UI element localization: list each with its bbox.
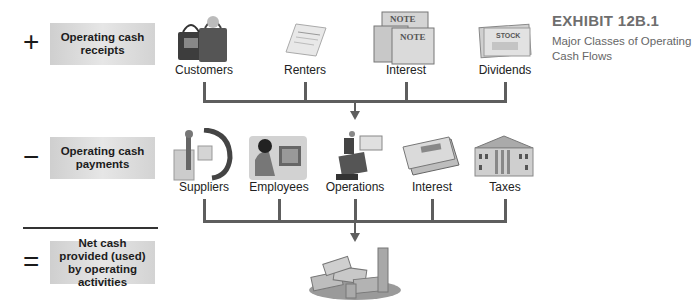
checks-icon <box>401 135 461 177</box>
minus-operator: − <box>23 143 39 171</box>
operating-cash-payments-box: Operating cash payments <box>50 137 155 179</box>
source-dividends: Dividends <box>460 63 550 77</box>
source-interest-receipt: Interest <box>361 63 451 77</box>
svg-text:NOTE: NOTE <box>400 32 426 42</box>
exhibit-subtitle: Major Classes of Operating Cash Flows <box>552 34 697 64</box>
supplier-boxes-icon <box>172 128 234 182</box>
operating-cash-receipts-box: Operating cash receipts <box>50 23 155 65</box>
plus-operator: + <box>23 28 39 56</box>
source-customers: Customers <box>159 63 249 77</box>
down-arrow-icon <box>350 233 360 242</box>
net-cash-box: Net cash provided (used) by operating ac… <box>50 241 155 284</box>
operations-equipment-icon <box>330 130 386 182</box>
down-arrow-icon <box>350 111 360 120</box>
government-building-icon <box>471 134 537 178</box>
rental-agreement-icon <box>284 22 328 58</box>
source-renters: Renters <box>260 63 350 77</box>
shopping-bags-icon <box>175 8 233 66</box>
employee-computer-icon <box>249 136 307 180</box>
payee-taxes: Taxes <box>460 180 550 194</box>
equals-operator: = <box>23 248 39 276</box>
money-pile-icon <box>306 244 404 302</box>
total-separator-line <box>23 227 158 229</box>
notes-icon: NOTE NOTE <box>372 10 438 66</box>
exhibit-title: EXHIBIT 12B.1 <box>552 12 659 29</box>
stock-certificate-icon: STOCK <box>478 22 534 60</box>
svg-text:NOTE: NOTE <box>390 14 416 24</box>
svg-text:STOCK: STOCK <box>496 32 520 39</box>
